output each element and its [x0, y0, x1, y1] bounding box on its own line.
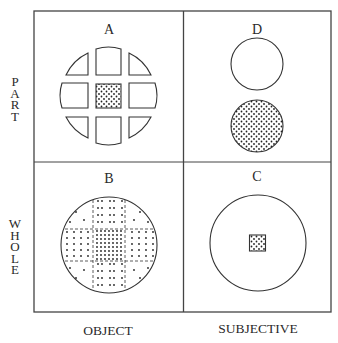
- dot: [133, 269, 135, 271]
- figure-b-whole-circle: [55, 190, 165, 300]
- dot: [87, 243, 89, 245]
- dot: [139, 277, 141, 279]
- dot: [147, 221, 149, 223]
- dot: [116, 246, 118, 248]
- dot: [66, 231, 68, 233]
- dot: [112, 250, 114, 252]
- dot: [120, 258, 122, 260]
- dot: [121, 263, 123, 265]
- figure-b-dots: [66, 200, 154, 286]
- dot: [80, 255, 82, 257]
- dot: [96, 242, 98, 244]
- dot: [87, 249, 89, 251]
- dot: [100, 250, 102, 252]
- dot: [120, 238, 122, 240]
- dot: [152, 255, 154, 257]
- dot: [101, 200, 103, 202]
- dot: [104, 234, 106, 236]
- dot: [100, 230, 102, 232]
- dot: [83, 219, 85, 221]
- dot: [108, 254, 110, 256]
- dot: [100, 246, 102, 248]
- dot: [113, 214, 115, 216]
- dot: [112, 238, 114, 240]
- dot: [120, 254, 122, 256]
- dot: [108, 238, 110, 240]
- dot: [112, 230, 114, 232]
- figure-d-dotted-circle: [231, 100, 283, 152]
- dot: [152, 249, 154, 251]
- dot: [96, 238, 98, 240]
- dot: [73, 231, 75, 233]
- dot: [97, 263, 99, 265]
- dot: [112, 234, 114, 236]
- dot: [113, 277, 115, 279]
- dot: [116, 234, 118, 236]
- dot: [112, 242, 114, 244]
- dot: [83, 269, 85, 271]
- dot: [116, 250, 118, 252]
- dot: [120, 250, 122, 252]
- dot: [73, 255, 75, 257]
- dot: [113, 263, 115, 265]
- dot: [109, 284, 111, 286]
- dot: [100, 234, 102, 236]
- dot: [138, 237, 140, 239]
- dot: [104, 258, 106, 260]
- dot: [73, 249, 75, 251]
- dot: [121, 214, 123, 216]
- dot: [121, 270, 123, 272]
- dot: [145, 237, 147, 239]
- piece-bottom: [96, 117, 121, 145]
- dot: [113, 284, 115, 286]
- dot: [104, 242, 106, 244]
- dot: [145, 231, 147, 233]
- dot: [97, 277, 99, 279]
- dot: [96, 254, 98, 256]
- dot: [138, 249, 140, 251]
- dot: [100, 242, 102, 244]
- dot: [116, 258, 118, 260]
- rowWhole-letter: E: [11, 262, 19, 277]
- dot: [101, 270, 103, 272]
- quadrant-label-c: C: [252, 169, 261, 184]
- dot: [112, 258, 114, 260]
- dot: [152, 237, 154, 239]
- dot: [108, 242, 110, 244]
- column-label-subjective: SUBJECTIVE: [218, 321, 298, 336]
- piece-bottom-right: [129, 117, 151, 138]
- figure-b-outline: [61, 197, 157, 293]
- dot: [109, 277, 111, 279]
- dot: [97, 207, 99, 209]
- dot: [80, 237, 82, 239]
- piece-top-left: [66, 53, 88, 75]
- dot: [109, 221, 111, 223]
- dot: [131, 231, 133, 233]
- dot: [116, 238, 118, 240]
- dot: [120, 246, 122, 248]
- dot: [104, 246, 106, 248]
- dot: [101, 263, 103, 265]
- dot: [145, 243, 147, 245]
- dot: [109, 200, 111, 202]
- dot: [109, 207, 111, 209]
- dot: [131, 255, 133, 257]
- dot: [66, 237, 68, 239]
- quadrant-label-a: A: [104, 22, 115, 37]
- dot: [138, 255, 140, 257]
- dot: [120, 230, 122, 232]
- dot: [139, 211, 141, 213]
- dot: [66, 255, 68, 257]
- piece-bottom-left: [66, 117, 88, 138]
- dot: [113, 270, 115, 272]
- piece-left: [60, 83, 88, 108]
- quadrant-label-b: B: [104, 171, 113, 186]
- dot: [69, 267, 71, 269]
- dot: [116, 254, 118, 256]
- column-label-object: OBJECT: [83, 323, 133, 338]
- dot: [108, 234, 110, 236]
- dot: [101, 207, 103, 209]
- dot: [87, 231, 89, 233]
- dot: [108, 230, 110, 232]
- dot: [101, 284, 103, 286]
